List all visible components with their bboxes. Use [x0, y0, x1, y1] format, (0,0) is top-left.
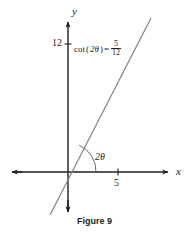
- angle-label-2theta: 2θ: [95, 152, 105, 162]
- y-axis-label: y: [72, 6, 77, 17]
- equation-relation: =: [104, 44, 109, 54]
- fraction-numerator: 5: [113, 40, 119, 48]
- equation-argument: 2θ: [90, 44, 99, 54]
- equation-function: cot: [74, 44, 85, 54]
- equation-paren-open: (: [86, 44, 89, 54]
- figure-caption: Figure 9: [0, 216, 189, 226]
- figure-container: y x 12 5 2θ cot(2θ) = 5 12 Figure 9: [0, 0, 189, 234]
- equation-fraction: 5 12: [111, 40, 121, 58]
- equation-paren-close: ): [100, 44, 103, 54]
- x-tick-label-5: 5: [114, 178, 119, 188]
- y-tick-label-12: 12: [52, 38, 62, 48]
- fraction-denominator: 12: [111, 49, 121, 57]
- coordinate-plot: [0, 0, 189, 234]
- angle-arc: [79, 145, 96, 172]
- equation-annotation: cot(2θ) = 5 12: [74, 40, 121, 58]
- x-axis-label: x: [176, 166, 181, 177]
